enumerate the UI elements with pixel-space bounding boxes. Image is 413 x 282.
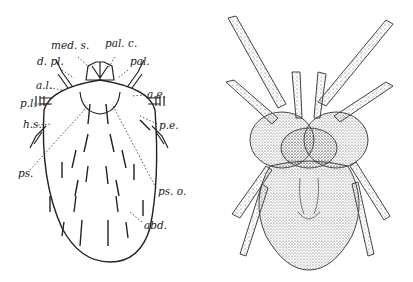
figure: med. s. pal. c. d. pl. pal. a.l. a.e. p.… xyxy=(0,0,413,282)
stippled-illustration xyxy=(0,0,413,282)
